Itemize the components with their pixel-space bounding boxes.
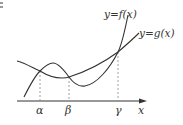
label-beta: β — [64, 104, 71, 117]
corner-mark — [0, 6, 3, 8]
corner-mark — [0, 2, 3, 4]
label-x-axis: x — [138, 104, 145, 117]
label-gamma: γ — [115, 104, 122, 117]
x-axis-arrow-icon — [139, 99, 147, 104]
curve-g — [17, 33, 139, 78]
label-alpha: α — [36, 104, 44, 117]
label-g: y=g(x) — [138, 27, 175, 39]
function-graph: y=f(x) y=g(x) α β γ x — [0, 0, 183, 125]
label-f: y=f(x) — [103, 8, 137, 20]
